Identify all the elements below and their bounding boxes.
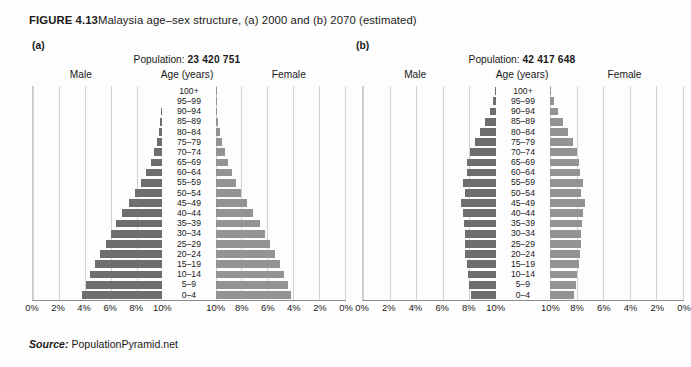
female-bar — [550, 291, 574, 299]
pyramid-row: 70–74 — [33, 147, 345, 157]
male-half — [363, 106, 496, 116]
x-axis-tick: 4% — [624, 302, 638, 313]
female-bar — [550, 230, 581, 238]
female-half — [550, 239, 683, 249]
male-half — [33, 280, 162, 290]
female-bar — [550, 209, 583, 217]
female-bar — [550, 159, 579, 167]
male-half — [363, 188, 496, 198]
age-group-label: 50–54 — [496, 188, 550, 198]
age-group-label: 90–94 — [162, 106, 215, 116]
panel-b-header-row: Male Age (years) Female — [356, 69, 688, 83]
female-half — [550, 157, 683, 167]
female-bar — [550, 250, 580, 258]
female-half — [216, 239, 345, 249]
female-bar — [550, 260, 579, 268]
male-bar — [475, 138, 496, 146]
age-group-label: 55–59 — [496, 178, 550, 188]
pyramid-row: 100+ — [33, 86, 345, 96]
age-group-label: 15–19 — [162, 259, 215, 269]
male-bar — [463, 179, 496, 187]
panel-b-axis: 10%8%6%4%2%0%0%2%4%6%8%10% — [362, 302, 684, 318]
male-half — [33, 239, 162, 249]
pyramid-row: 65–69 — [33, 157, 345, 167]
female-half — [550, 198, 683, 208]
pyramid-row: 50–54 — [363, 188, 683, 198]
age-axis-label: Age (years) — [496, 69, 549, 80]
pyramid-row: 45–49 — [33, 198, 345, 208]
pyramid-row: 60–64 — [33, 168, 345, 178]
male-bar — [90, 271, 163, 279]
population-value: 23 420 751 — [187, 54, 240, 65]
x-axis-tick: 10% — [153, 302, 172, 313]
male-half — [33, 269, 162, 279]
female-half — [550, 178, 683, 188]
female-half — [216, 280, 345, 290]
pyramid-row: 90–94 — [33, 106, 345, 116]
male-half — [33, 229, 162, 239]
age-group-label: 80–84 — [496, 127, 550, 137]
pyramid-row: 25–29 — [33, 239, 345, 249]
female-bar — [216, 199, 248, 207]
age-group-label: 70–74 — [496, 147, 550, 157]
gridline — [630, 86, 631, 300]
source-text: PopulationPyramid.net — [68, 338, 178, 350]
age-group-label: 25–29 — [162, 239, 215, 249]
female-bar — [216, 169, 232, 177]
female-half — [216, 157, 345, 167]
male-bar — [141, 179, 162, 187]
female-half — [216, 106, 345, 116]
pyramid-row: 85–89 — [363, 117, 683, 127]
panel-a-rows: 100+95–9990–9485–8980–8475–7970–7465–696… — [33, 86, 345, 300]
male-bar — [467, 260, 496, 268]
male-bar — [468, 271, 496, 279]
female-bar — [550, 240, 581, 248]
age-group-label: 40–44 — [496, 208, 550, 218]
female-bar — [216, 108, 217, 116]
age-group-label: 30–34 — [496, 229, 550, 239]
pyramid-row: 80–84 — [33, 127, 345, 137]
pyramid-row: 10–14 — [363, 269, 683, 279]
female-half — [216, 229, 345, 239]
male-bar — [485, 118, 495, 126]
female-half — [550, 208, 683, 218]
pyramid-row: 85–89 — [33, 117, 345, 127]
female-bar — [216, 128, 220, 136]
population-label: Population: — [469, 54, 523, 65]
male-bar — [151, 159, 163, 167]
female-half — [216, 86, 345, 96]
age-group-label: 25–29 — [496, 239, 550, 249]
panel-a-header-row: Male Age (years) Female — [22, 69, 352, 83]
male-half — [33, 127, 162, 137]
gridline — [683, 86, 684, 300]
female-bar — [216, 281, 289, 289]
female-half — [550, 137, 683, 147]
male-half — [33, 208, 162, 218]
age-group-label: 100+ — [496, 86, 550, 96]
x-axis-tick: 6% — [261, 302, 275, 313]
age-group-label: 5–9 — [496, 280, 550, 290]
pyramid-row: 75–79 — [33, 137, 345, 147]
male-bar — [106, 240, 163, 248]
x-axis-tick: 10% — [206, 302, 225, 313]
pyramid-row: 20–24 — [33, 249, 345, 259]
female-bar — [550, 220, 582, 228]
male-half — [33, 218, 162, 228]
male-half — [363, 117, 496, 127]
male-half — [363, 198, 496, 208]
female-bar — [216, 250, 276, 258]
female-half — [550, 188, 683, 198]
age-group-label: 5–9 — [162, 280, 215, 290]
gridline — [33, 86, 34, 300]
pyramid-row: 10–14 — [33, 269, 345, 279]
pyramid-row: 55–59 — [363, 178, 683, 188]
age-group-label: 0–4 — [162, 290, 215, 300]
age-group-label: 45–49 — [496, 198, 550, 208]
x-axis-tick: 4% — [287, 302, 301, 313]
male-half — [33, 188, 162, 198]
male-half — [33, 157, 162, 167]
age-group-label: 35–39 — [496, 218, 550, 228]
gridline — [345, 86, 346, 300]
female-legend-label: Female — [272, 69, 306, 80]
male-bar — [464, 220, 496, 228]
